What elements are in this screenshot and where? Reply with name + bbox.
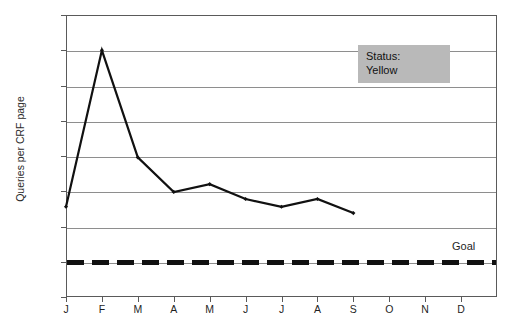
x-tick-label: M [123,303,153,315]
x-tick-label: J [267,303,297,315]
x-tick-label: M [195,303,225,315]
goal-label: Goal [452,240,475,252]
x-tick-mark [461,297,462,302]
gridline-0.25 [67,122,496,123]
x-tick-mark [389,297,390,302]
status-heading: Status: [366,49,450,63]
x-tick-mark [66,297,67,302]
x-tick-label: N [410,303,440,315]
x-tick-mark [353,297,354,302]
x-tick-label: J [231,303,261,315]
chart-title [0,0,513,3]
y-tick-mark [61,15,66,16]
y-tick-mark [61,86,66,87]
y-tick-mark [61,262,66,263]
x-tick-label: J [51,303,81,315]
x-tick-mark [138,297,139,302]
status-value: Yellow [366,63,450,77]
y-tick-mark [61,50,66,51]
x-tick-label: F [87,303,117,315]
y-tick-mark [61,121,66,122]
x-tick-mark [425,297,426,302]
x-tick-label: A [159,303,189,315]
chart-canvas: Queries per CRF page 00.050.10.150.20.25… [0,0,513,327]
x-tick-label: D [446,303,476,315]
gridline-0.3 [67,87,496,88]
status-callout: Status: Yellow [358,45,450,83]
y-tick-mark [61,227,66,228]
gridline-0.1 [67,228,496,229]
goal-reference-line [67,260,496,265]
y-tick-mark [61,156,66,157]
x-tick-label: O [374,303,404,315]
x-tick-label: S [338,303,368,315]
y-axis-title: Queries per CRF page [14,59,26,239]
y-tick-mark [61,191,66,192]
x-tick-mark [317,297,318,302]
gridline-0.2 [67,157,496,158]
x-tick-mark [210,297,211,302]
x-tick-label: A [302,303,332,315]
x-tick-mark [174,297,175,302]
gridline-0.15 [67,192,496,193]
x-tick-mark [102,297,103,302]
x-tick-mark [282,297,283,302]
x-tick-mark [246,297,247,302]
